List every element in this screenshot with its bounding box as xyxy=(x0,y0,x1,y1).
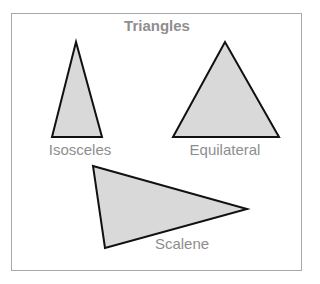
equilateral-label: Equilateral xyxy=(190,141,261,158)
isosceles-triangle xyxy=(52,42,102,137)
equilateral-triangle xyxy=(173,42,279,137)
scalene-label: Scalene xyxy=(155,235,209,252)
isosceles-label: Isosceles xyxy=(49,141,112,158)
